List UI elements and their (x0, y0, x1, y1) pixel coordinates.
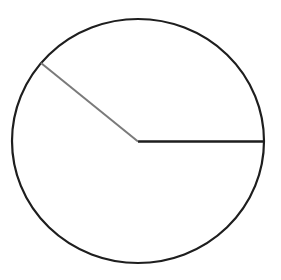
slanted-radius-line (41, 63, 138, 142)
diagram-canvas (0, 0, 281, 280)
circle-diagram (0, 0, 281, 280)
